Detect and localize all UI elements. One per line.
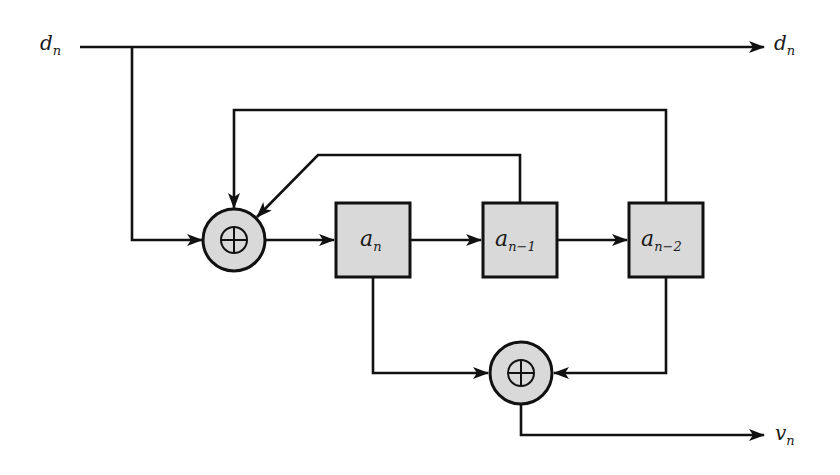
output-adder-to-v-n-wire xyxy=(521,404,764,435)
encoder-diagram: dn dn an an−1 an−2 xyxy=(0,0,840,475)
a-n-2-to-output-adder-wire xyxy=(554,277,666,373)
feedback-adder xyxy=(203,209,265,271)
output-label-d-n: dn xyxy=(774,31,795,58)
a-n-to-output-adder-wire xyxy=(373,277,488,373)
register-a-n-2: an−2 xyxy=(629,203,703,277)
input-label-d-n: dn xyxy=(40,31,61,58)
register-a-n-1: an−1 xyxy=(483,203,557,277)
output-label-v-n: vn xyxy=(775,421,795,448)
input-to-adder-wire xyxy=(132,47,202,240)
register-a-n: an xyxy=(336,203,410,277)
output-adder xyxy=(490,342,552,404)
feedback-a-n-2-wire xyxy=(234,110,666,208)
